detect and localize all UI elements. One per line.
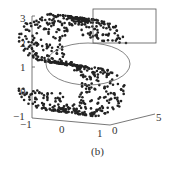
z-tick-0: 0: [112, 124, 118, 136]
data-points: [18, 13, 128, 118]
z-tick-5: 5: [156, 111, 162, 123]
y-tick-0: 0: [20, 85, 26, 97]
x-tick-neg1: −1: [20, 118, 32, 130]
highlight-rectangle: [93, 9, 156, 43]
scatter-3d-chart: 3 2 1 0 −1 −1 0 1 0 5 (b): [0, 0, 174, 169]
y-tick-3: 3: [20, 12, 26, 24]
y-tick-1: 1: [20, 61, 26, 73]
x-tick-1: 1: [97, 127, 103, 139]
x-tick-0: 0: [59, 123, 65, 135]
y-tick-2: 2: [20, 37, 26, 49]
caption: (b): [91, 145, 104, 158]
